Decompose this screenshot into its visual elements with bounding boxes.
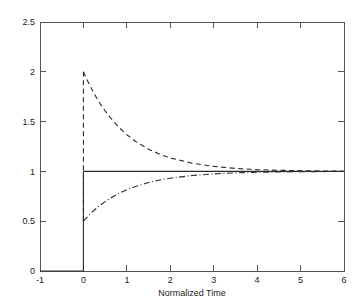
chart-figure: 0 0.5 1 1.5 2 2.5 -1 0 1 2 3 4 5 6 Norma… [0,0,362,306]
step-response-plot: 0 0.5 1 1.5 2 2.5 -1 0 1 2 3 4 5 6 Norma… [0,0,362,306]
y-tick-label: 1.5 [22,117,35,127]
figure-background [0,0,362,306]
x-tick-label: 1 [124,275,129,285]
x-tick-label: 5 [298,275,303,285]
y-tick-label: 0.5 [22,216,35,226]
x-tick-label: 3 [211,275,216,285]
y-tick-label: 0 [30,266,35,276]
y-tick-label: 2 [30,67,35,77]
y-tick-label: 1 [30,167,35,177]
x-tick-label: 0 [81,275,86,285]
x-tick-label: 4 [255,275,260,285]
x-tick-label: -1 [36,275,44,285]
y-tick-label: 2.5 [22,17,35,27]
x-tick-label: 2 [168,275,173,285]
x-axis-title: Normalized Time [158,288,226,298]
x-tick-label: 6 [341,275,346,285]
